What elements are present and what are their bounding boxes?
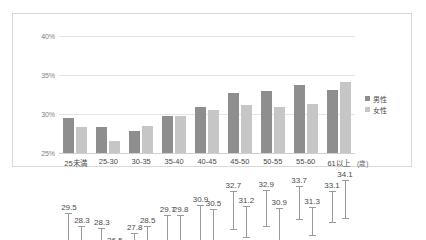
bar-group: 30.930.5 [195,36,219,153]
legend-label-female: 女性 [373,105,387,115]
plot-area: 40%35%30%25% 29.528.328.326.527.828.529.… [59,36,355,153]
data-label: 32.9 [253,180,279,181]
bar-rect [274,107,285,153]
x-axis-line [59,153,355,154]
bar-group: 32.930.9 [261,36,285,153]
bar-rect [96,127,107,153]
y-axis-tick-label: 25% [41,150,55,157]
x-axis-tick-label: 30-35 [125,157,158,166]
legend-swatch-male-icon [365,96,370,101]
y-axis-tick-label: 30% [41,111,55,118]
bar-group: 32.731.2 [228,36,252,153]
legend-label-male: 男性 [373,94,387,104]
x-axis-tick-label: 45-50 [223,157,256,166]
bar-rect [195,107,206,153]
bar-rect [142,126,153,153]
bar-rect [241,105,252,153]
x-axis-unit-label: (歳) [357,158,368,168]
bar-group: 33.134.1 [327,36,351,153]
y-axis-tick-label: 35% [41,72,55,79]
bar-rect [228,93,239,153]
x-axis-tick-label: 25-30 [92,157,125,166]
bar-group: 29.729.8 [162,36,186,153]
legend-item-female[interactable]: 女性 [365,104,387,115]
bar-group: 33.731.3 [294,36,318,153]
bar-rect [294,85,305,153]
bar-group: 27.828.5 [129,36,153,153]
x-axis-tick-label: 55-60 [289,157,322,166]
chart-frame: 40%35%30%25% 29.528.328.326.527.828.529.… [12,13,412,167]
bar-rect [208,110,219,153]
bar-rect [307,104,318,153]
bar-rect [261,91,272,153]
legend-item-male[interactable]: 男性 [365,93,387,104]
bar-rect [63,118,74,153]
legend-swatch-female-icon [365,107,370,112]
bar-rect [327,90,338,153]
y-axis-tick-label: 40% [41,33,55,40]
error-bar-cap-top [342,180,349,181]
bar-group: 29.528.3 [63,36,87,153]
bar-rect [175,116,186,153]
bar-rect [162,116,173,153]
x-axis-tick-label: 25未満 [59,157,92,168]
x-axis-tick-label: 40-45 [191,157,224,166]
x-axis-tick-label: 35-40 [158,157,191,166]
bar-rect [109,141,120,153]
x-axis-tick-label: 61以上 [322,157,355,168]
bar-group: 28.326.5 [96,36,120,153]
bar-rect [129,131,140,153]
x-axis-tick-label: 50-55 [256,157,289,166]
data-label: 33.7 [286,176,312,181]
chart-legend: 男性 女性 [365,93,387,115]
bar-rect [76,127,87,153]
data-label: 34.1 [332,170,358,179]
bar-rect [340,82,351,153]
